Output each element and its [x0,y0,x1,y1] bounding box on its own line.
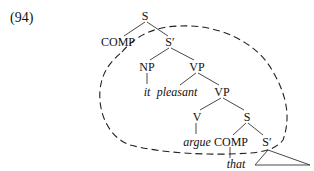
node-v: V [193,110,202,124]
leaf-it: it [144,85,151,99]
node-s-root: S [142,9,149,23]
edge-s-comp [124,22,145,36]
edge-s-sbar [147,22,168,36]
syntax-tree-diagram: (94) S COMP S′ NP it [0,0,314,171]
edge-sbar-vp [171,48,194,60]
example-number: (94) [10,10,34,26]
edge-vp-pleasant [180,73,196,85]
leaf-that: that [227,157,246,171]
node-sbar-2: S′ [262,135,272,149]
tree-nodes: S COMP S′ NP it VP pleasant VP V argue S… [101,9,272,171]
edge-vp-s [223,98,244,110]
edge-sbar-np [150,48,169,60]
node-comp-1: COMP [101,35,135,49]
triangle-subtree [255,150,310,165]
edge-s-sbar2 [248,123,263,135]
edge-vp-v [200,98,221,110]
edge-s-comp2 [233,123,246,135]
node-comp-2: COMP [214,135,248,149]
edge-vp-vp [198,73,219,85]
node-sbar-1: S′ [165,35,175,49]
leaf-pleasant: pleasant [156,85,198,99]
leaf-argue: argue [183,135,211,149]
node-vp-1: VP [189,60,205,74]
node-vp-2: VP [214,85,230,99]
node-s-2: S [244,110,251,124]
node-np: NP [139,60,155,74]
